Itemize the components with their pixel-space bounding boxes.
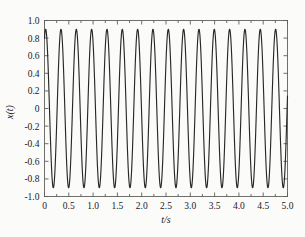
x-tick-label: 4.0 bbox=[233, 201, 245, 211]
figure-container: 00.51.01.52.02.53.03.54.04.55.0 -1.0-0.8… bbox=[0, 0, 305, 237]
oscillation-line bbox=[45, 29, 288, 187]
line-chart: 00.51.01.52.02.53.03.54.04.55.0 -1.0-0.8… bbox=[0, 0, 305, 237]
y-tick-label: 0.4 bbox=[28, 69, 40, 79]
x-tick-label: 1.5 bbox=[111, 201, 123, 211]
x-tick-label: 1.0 bbox=[87, 201, 99, 211]
y-tick-label: 1.0 bbox=[28, 16, 40, 26]
y-tick-label: -0.4 bbox=[24, 139, 39, 149]
y-axis-tick-labels: -1.0-0.8-0.6-0.4-0.200.20.40.60.81.0 bbox=[24, 16, 39, 202]
y-tick-label: 0.8 bbox=[28, 34, 40, 44]
x-tick-label: 0 bbox=[42, 201, 47, 211]
y-tick-label: 0.2 bbox=[28, 86, 40, 96]
data-series-group bbox=[45, 29, 288, 187]
x-tick-label: 5.0 bbox=[282, 201, 294, 211]
x-tick-label: 3.0 bbox=[184, 201, 196, 211]
x-tick-label: 0.5 bbox=[63, 201, 75, 211]
x-tick-label: 3.5 bbox=[209, 201, 221, 211]
y-tick-label: 0 bbox=[35, 104, 40, 114]
x-axis-tick-labels: 00.51.01.52.02.53.03.54.04.55.0 bbox=[42, 201, 294, 211]
x-tick-label: 4.5 bbox=[257, 201, 269, 211]
y-axis-title: x(t) bbox=[4, 104, 16, 120]
x-tick-label: 2.5 bbox=[160, 201, 172, 211]
y-tick-label: -0.8 bbox=[24, 174, 39, 184]
x-tick-label: 2.0 bbox=[136, 201, 148, 211]
y-tick-label: 0.6 bbox=[28, 51, 40, 61]
y-tick-label: -0.2 bbox=[24, 122, 39, 132]
y-tick-label: -0.6 bbox=[24, 157, 39, 167]
x-axis-title: t/s bbox=[161, 214, 171, 225]
y-tick-label: -1.0 bbox=[24, 192, 39, 202]
